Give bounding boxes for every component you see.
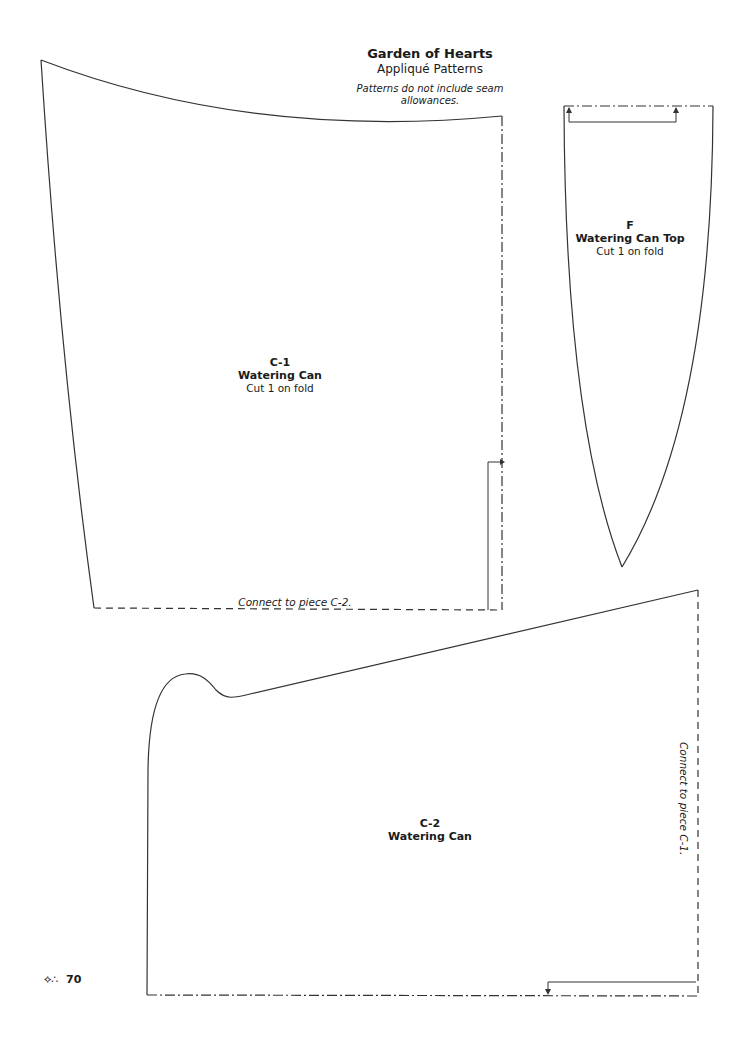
piece-f-label: F Watering Can Top Cut 1 on fold — [560, 220, 700, 257]
piece-c2-name: Watering Can — [360, 831, 500, 844]
page-footer: ⟡∴ 70 — [44, 973, 81, 986]
piece-f-instruction: Cut 1 on fold — [560, 245, 700, 257]
pattern-shapes — [0, 0, 754, 1044]
vine-ornament-icon: ⟡∴ — [44, 973, 58, 986]
page-number: 70 — [66, 973, 81, 986]
piece-c1-instruction: Cut 1 on fold — [210, 382, 350, 394]
piece-c2-outline — [147, 590, 698, 996]
piece-f-outline — [564, 106, 713, 567]
piece-c1-outline — [41, 60, 505, 610]
piece-c2-label: C-2 Watering Can — [360, 818, 500, 843]
piece-c1-name: Watering Can — [210, 370, 350, 383]
piece-c2-code: C-2 — [360, 818, 500, 831]
piece-c1-code: C-1 — [210, 357, 350, 370]
pattern-page: Garden of Hearts Appliqué Patterns Patte… — [0, 0, 754, 1044]
connect-to-c2-note: Connect to piece C-2. — [200, 596, 390, 608]
page-title: Garden of Hearts — [330, 47, 530, 62]
page-subtitle: Appliqué Patterns — [330, 63, 530, 77]
piece-c1-label: C-1 Watering Can Cut 1 on fold — [210, 357, 350, 394]
piece-f-code: F — [560, 220, 700, 233]
connect-to-c1-note: Connect to piece C-1. — [678, 742, 690, 855]
seam-allowance-note: Patterns do not include seam allowances. — [330, 83, 530, 106]
piece-f-name: Watering Can Top — [560, 233, 700, 246]
